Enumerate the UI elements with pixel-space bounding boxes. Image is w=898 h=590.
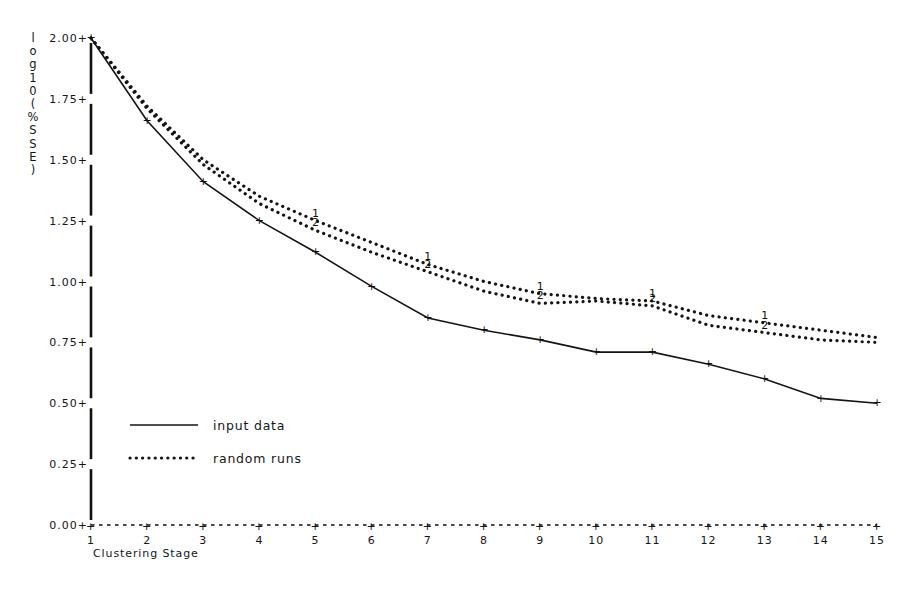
y-axis-label-char: S	[29, 123, 36, 137]
x-tick-label: 7	[424, 534, 432, 547]
x-axis-tick-mark: +	[142, 520, 152, 533]
y-axis-label-char: (	[31, 97, 36, 111]
series-point-marker: +	[536, 333, 545, 346]
x-axis-tick-mark: +	[254, 520, 264, 533]
series-point-marker: +	[479, 323, 488, 336]
x-tick-label: 14	[813, 534, 829, 547]
x-axis-tick-mark: +	[816, 520, 826, 533]
y-tick-label: 1.75+	[49, 93, 88, 106]
x-axis-tick-mark: +	[591, 520, 601, 533]
x-axis-tick-mark: +	[760, 520, 770, 533]
y-axis-tick-labels: 0.00+0.25+0.50+0.75+1.00+1.25+1.50+1.75+…	[49, 32, 88, 532]
y-axis-label: log10(%SSE)	[28, 31, 39, 177]
chart-container: log10(%SSE) 0.00+0.25+0.50+0.75+1.00+1.2…	[0, 0, 898, 590]
x-tick-label: 15	[869, 534, 885, 547]
series-point-marker: 2	[761, 319, 768, 332]
x-tick-label: 2	[143, 534, 151, 547]
series-point-marker: +	[255, 214, 264, 227]
x-tick-label: 1	[87, 534, 95, 547]
series-point-marker: +	[704, 357, 713, 370]
y-axis-label-char: o	[29, 44, 36, 58]
y-axis-label-char: l	[31, 31, 34, 45]
series-point-marker: +	[760, 372, 769, 385]
series-point-marker: +	[143, 114, 152, 127]
x-axis-tick-mark: +	[535, 520, 545, 533]
y-tick-label: 2.00+	[49, 32, 88, 45]
x-tick-label: 9	[536, 534, 544, 547]
x-tick-label: 13	[757, 534, 773, 547]
x-tick-label: 10	[588, 534, 604, 547]
series-point-marker: 2	[312, 216, 319, 229]
y-axis-label-char: g	[29, 57, 36, 71]
x-tick-label: 4	[255, 534, 263, 547]
x-axis-tick-mark: +	[198, 520, 208, 533]
y-tick-label: 0.25+	[49, 458, 88, 471]
y-tick-label: 0.75+	[49, 336, 88, 349]
y-tick-label: 1.25+	[49, 215, 88, 228]
y-axis-label-char: S	[29, 137, 36, 151]
x-axis-tick-mark: +	[872, 520, 882, 533]
data-series-group: +++++++++++++++1111122222	[86, 31, 881, 409]
series-point-marker: +	[816, 392, 825, 405]
series-point-marker: +	[872, 396, 881, 409]
y-axis-label-char: 0	[29, 84, 36, 98]
x-axis-line: +++++++++++++++	[86, 520, 882, 533]
series-point-marker: +	[648, 345, 657, 358]
series-point-marker: +	[367, 280, 376, 293]
scree-plot-chart: log10(%SSE) 0.00+0.25+0.50+0.75+1.00+1.2…	[0, 0, 898, 590]
y-tick-label: 1.00+	[49, 276, 88, 289]
x-tick-label: 8	[480, 534, 488, 547]
x-tick-label: 5	[312, 534, 320, 547]
series-point-marker: 2	[649, 292, 656, 305]
x-axis-tick-mark: +	[86, 520, 96, 533]
x-axis-tick-mark: +	[310, 520, 320, 533]
x-axis-tick-mark: +	[423, 520, 433, 533]
y-axis-label-char: 1	[29, 71, 36, 85]
x-tick-label: 12	[701, 534, 717, 547]
y-tick-label: 0.50+	[49, 397, 88, 410]
x-axis-tick-mark: +	[367, 520, 377, 533]
series-line	[91, 38, 877, 342]
legend-label: random runs	[213, 451, 302, 466]
x-axis-title: Clustering Stage	[93, 547, 199, 560]
series-point-marker: +	[199, 175, 208, 188]
x-tick-label: 3	[199, 534, 207, 547]
chart-legend: input datarandom runs	[130, 418, 302, 466]
y-axis-label-char: E	[29, 150, 36, 164]
x-axis-tick-labels: 123456789101112131415	[87, 534, 885, 547]
x-axis-tick-mark: +	[703, 520, 713, 533]
y-tick-label: 0.00+	[49, 519, 88, 532]
y-axis-label-char: )	[31, 163, 36, 177]
series-point-marker: +	[592, 345, 601, 358]
y-tick-label: 1.50+	[49, 154, 88, 167]
legend-label: input data	[213, 418, 285, 433]
series-point-marker: 2	[537, 289, 544, 302]
x-axis-tick-mark: +	[479, 520, 489, 533]
x-tick-label: 6	[368, 534, 376, 547]
series-point-marker: +	[311, 245, 320, 258]
y-axis-label-char: %	[28, 110, 39, 124]
series-line	[91, 38, 877, 403]
series-point-marker: +	[423, 311, 432, 324]
x-tick-label: 11	[644, 534, 660, 547]
x-axis-tick-mark: +	[647, 520, 657, 533]
series-point-marker: 2	[424, 258, 431, 271]
